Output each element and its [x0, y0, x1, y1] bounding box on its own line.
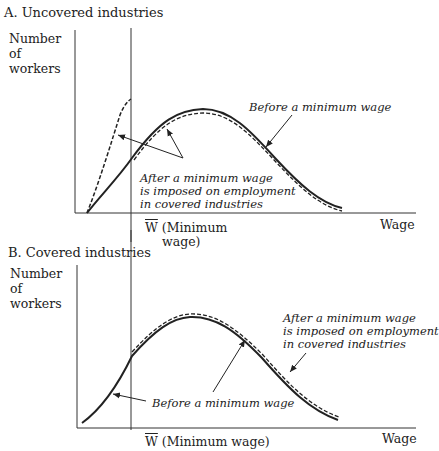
panel-b-arrow-before-right [213, 340, 245, 392]
panel-b-arrow-after [290, 353, 306, 372]
panel-b-arrow-before-left [113, 394, 146, 401]
panel-a-before-curve [87, 109, 342, 213]
panel-a-arrow-after-left [118, 135, 183, 158]
panel-a-arrow-before [266, 115, 292, 147]
panel-a-after-spike [87, 99, 131, 213]
panel-b-before-curve [82, 317, 338, 423]
panel-a-after-curve [134, 113, 342, 211]
panel-b-after-curve [132, 314, 339, 417]
